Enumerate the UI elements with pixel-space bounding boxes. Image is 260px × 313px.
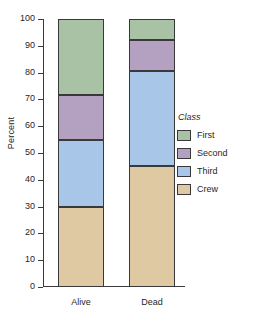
- legend-item-crew[interactable]: Crew: [177, 180, 259, 198]
- y-tick-label: 70: [25, 93, 35, 104]
- legend-title: Class: [178, 112, 259, 122]
- y-tick-label: 20: [25, 227, 35, 238]
- y-tick-mark: [38, 73, 43, 74]
- bar-segment-third[interactable]: [58, 140, 104, 207]
- y-tick-mark: [38, 233, 43, 234]
- y-tick-mark: [38, 207, 43, 208]
- plot-area: 0102030405060708090100 AliveDead: [43, 19, 169, 287]
- bar-segment-second[interactable]: [58, 95, 104, 139]
- legend-swatch-second: [177, 148, 191, 159]
- bar-segment-crew[interactable]: [129, 166, 175, 287]
- y-tick-mark: [38, 126, 43, 127]
- y-tick-mark: [38, 287, 43, 288]
- y-axis-line: [43, 19, 44, 287]
- legend: Class FirstSecondThirdCrew: [177, 112, 259, 198]
- y-tick-mark: [38, 19, 43, 20]
- legend-item-first[interactable]: First: [177, 126, 259, 144]
- legend-item-third[interactable]: Third: [177, 162, 259, 180]
- bar-dead[interactable]: [129, 19, 175, 287]
- y-tick-mark: [38, 153, 43, 154]
- bar-segment-third[interactable]: [129, 71, 175, 166]
- y-tick-mark: [38, 260, 43, 261]
- legend-label: Second: [197, 148, 228, 158]
- y-tick-label: 90: [25, 40, 35, 51]
- y-tick-mark: [38, 99, 43, 100]
- y-axis-label: Percent: [6, 98, 16, 168]
- y-tick-mark: [38, 46, 43, 47]
- y-tick-label: 60: [25, 120, 35, 131]
- stacked-bar-chart: Percent 0102030405060708090100 AliveDead…: [0, 0, 260, 313]
- y-tick-label: 30: [25, 201, 35, 212]
- legend-item-second[interactable]: Second: [177, 144, 259, 162]
- legend-swatch-first: [177, 130, 191, 141]
- y-tick-label: 100: [20, 13, 35, 24]
- bar-segment-first[interactable]: [129, 19, 175, 40]
- y-tick-mark: [38, 180, 43, 181]
- bar-segment-crew[interactable]: [58, 207, 104, 287]
- y-tick-label: 0: [30, 281, 35, 292]
- y-tick-label: 10: [25, 254, 35, 265]
- bar-segment-second[interactable]: [129, 40, 175, 71]
- legend-items: FirstSecondThirdCrew: [177, 126, 259, 198]
- bar-alive[interactable]: [58, 19, 104, 287]
- legend-swatch-third: [177, 166, 191, 177]
- x-axis-label-dead: Dead: [117, 297, 187, 307]
- y-tick-label: 80: [25, 67, 35, 78]
- bar-segment-first[interactable]: [58, 19, 104, 95]
- legend-label: First: [197, 130, 215, 140]
- legend-swatch-crew: [177, 184, 191, 195]
- legend-label: Crew: [197, 184, 218, 194]
- y-tick-label: 40: [25, 174, 35, 185]
- x-axis-label-alive: Alive: [46, 297, 116, 307]
- y-tick-label: 50: [25, 147, 35, 158]
- legend-label: Third: [197, 166, 218, 176]
